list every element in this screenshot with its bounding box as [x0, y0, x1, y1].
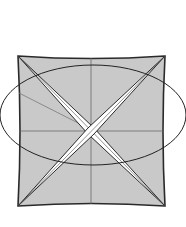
diagram-canvas: [0, 0, 186, 227]
fold-diagram: [0, 0, 186, 227]
